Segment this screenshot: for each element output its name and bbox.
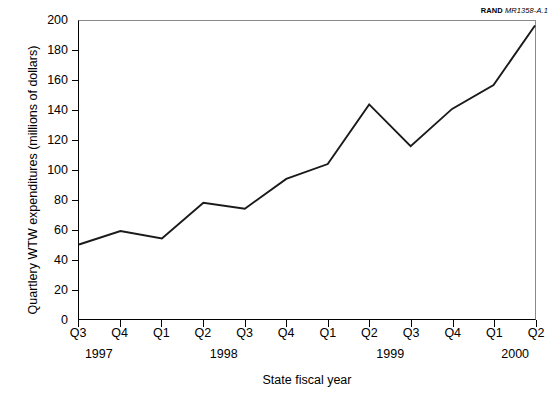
y-axis-tick-label: 140 bbox=[26, 104, 68, 117]
x-axis-tick-label: Q3 bbox=[391, 327, 431, 340]
x-axis-tick-label: Q2 bbox=[516, 327, 554, 340]
rand-logo-text: RAND bbox=[481, 6, 503, 15]
x-axis-year-label: 1998 bbox=[184, 348, 264, 361]
x-axis-year-label: 2000 bbox=[475, 348, 554, 361]
y-axis-tick-label: 0 bbox=[26, 314, 68, 327]
x-axis-tick-label: Q1 bbox=[308, 327, 348, 340]
x-axis-tick-label: Q1 bbox=[141, 327, 181, 340]
y-axis-tick-label: 200 bbox=[26, 14, 68, 27]
y-axis-tick-label: 180 bbox=[26, 44, 68, 57]
x-axis-tick-label: Q4 bbox=[433, 327, 473, 340]
x-axis-tick-label: Q1 bbox=[474, 327, 514, 340]
y-axis-tick-label: 100 bbox=[26, 164, 68, 177]
rand-document-number: MR1358-A.1 bbox=[505, 6, 548, 15]
y-axis-tick-label: 40 bbox=[26, 254, 68, 267]
source-credit: RANDMR1358-A.1 bbox=[481, 7, 548, 15]
x-axis-year-label: 1999 bbox=[350, 348, 430, 361]
x-axis-tick-label: Q4 bbox=[100, 327, 140, 340]
chart-figure: RANDMR1358-A.1 Quartlery WTW expenditure… bbox=[0, 0, 554, 397]
x-axis-tick-label: Q3 bbox=[225, 327, 265, 340]
expenditure-line-series bbox=[79, 25, 535, 244]
x-axis-tick-label: Q2 bbox=[349, 327, 389, 340]
x-axis-tick-label: Q4 bbox=[266, 327, 306, 340]
x-axis-title: State fiscal year bbox=[78, 374, 536, 387]
y-axis-tick-label: 80 bbox=[26, 194, 68, 207]
y-axis-tick-label: 20 bbox=[26, 284, 68, 297]
x-axis-year-label: 1997 bbox=[59, 348, 139, 361]
x-axis-tick-label: Q3 bbox=[58, 327, 98, 340]
plot-area bbox=[78, 20, 536, 320]
y-axis-tick-label: 160 bbox=[26, 74, 68, 87]
y-axis-tick-label: 60 bbox=[26, 224, 68, 237]
y-axis-tick-label: 120 bbox=[26, 134, 68, 147]
x-axis-tick-label: Q2 bbox=[183, 327, 223, 340]
line-series-svg bbox=[79, 21, 535, 319]
